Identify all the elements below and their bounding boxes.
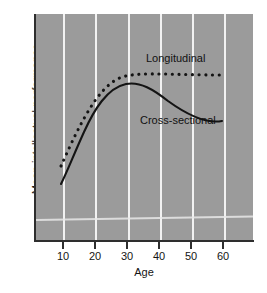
- chart-figure: Mean intellectual performance Longitudin…: [0, 0, 267, 293]
- x-tick-30: [126, 242, 128, 249]
- x-tick-label-10: 10: [48, 250, 78, 262]
- series-cross-sectional-line: [61, 83, 222, 184]
- x-tick-label-50: 50: [176, 250, 206, 262]
- x-tick-label-20: 20: [80, 250, 110, 262]
- x-tick-label-30: 30: [112, 250, 142, 262]
- x-axis-label: Age: [34, 266, 254, 278]
- chart-curves: [34, 14, 253, 240]
- x-tick-50: [190, 242, 192, 249]
- x-tick-40: [158, 242, 160, 249]
- x-tick-label-60: 60: [208, 250, 238, 262]
- series-label-longitudinal: Longitudinal: [146, 52, 205, 64]
- x-tick-10: [62, 242, 64, 249]
- x-tick-60: [222, 242, 224, 249]
- series-label-cross-sectional: Cross-sectional: [140, 114, 216, 126]
- x-tick-label-40: 40: [144, 250, 174, 262]
- x-tick-20: [94, 242, 96, 249]
- x-axis-line: [34, 240, 254, 242]
